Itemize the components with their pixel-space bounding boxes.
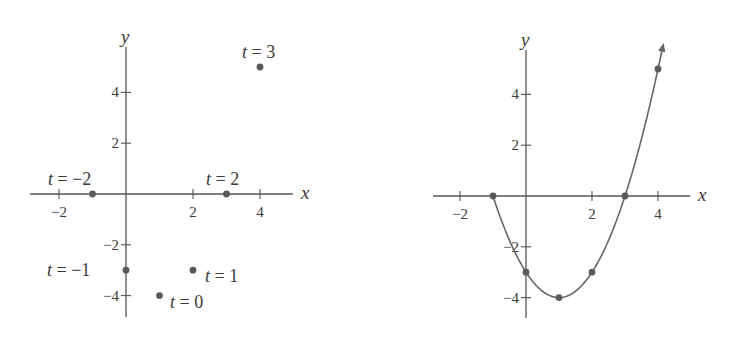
y-tick-label: 2 [112, 135, 120, 151]
data-point [622, 193, 629, 200]
point-label: t = 1 [205, 266, 238, 286]
y-tick-label: 4 [112, 84, 120, 100]
point-label: t = −1 [47, 260, 90, 280]
parabola-curve [493, 46, 663, 298]
arrowhead-icon [658, 43, 665, 53]
x-tick-label: 2 [189, 204, 197, 220]
y-tick-label: −4 [503, 290, 519, 306]
figure-canvas: xy−22442−2−4t = −2t = −1t = 0t = 1t = 2t… [0, 0, 735, 338]
y-tick-label: −2 [503, 239, 519, 255]
point-label: t = 0 [170, 292, 203, 312]
y-tick-label: 2 [512, 137, 520, 153]
data-point [257, 64, 264, 71]
y-axis-label: y [119, 26, 130, 47]
y-tick-label: −4 [103, 288, 119, 304]
y-axis-label: y [519, 29, 530, 50]
data-point [156, 292, 163, 299]
x-tick-label: 2 [588, 206, 596, 222]
scatter-plot-parametric-points: xy−22442−2−4t = −2t = −1t = 0t = 1t = 2t… [30, 26, 310, 317]
x-tick-label: −2 [51, 204, 67, 220]
data-point [490, 193, 497, 200]
point-label: t = −2 [48, 169, 91, 189]
curve-plot-parabola: xy−22442−2−4 [433, 29, 707, 318]
x-axis-label: x [697, 184, 707, 205]
y-tick-label: −2 [103, 237, 119, 253]
data-point [123, 267, 130, 274]
data-point [655, 66, 662, 73]
data-point [89, 191, 96, 198]
data-point [523, 269, 530, 276]
data-point [190, 267, 197, 274]
point-label: t = 3 [242, 42, 275, 62]
point-label: t = 2 [206, 169, 239, 189]
figure: xy−22442−2−4t = −2t = −1t = 0t = 1t = 2t… [0, 0, 735, 338]
data-point [556, 294, 563, 301]
x-tick-label: −2 [452, 206, 468, 222]
x-tick-label: 4 [654, 206, 662, 222]
x-tick-label: 4 [256, 204, 264, 220]
data-point [223, 191, 230, 198]
y-tick-label: 4 [512, 86, 520, 102]
x-axis-label: x [300, 182, 310, 203]
data-point [589, 269, 596, 276]
